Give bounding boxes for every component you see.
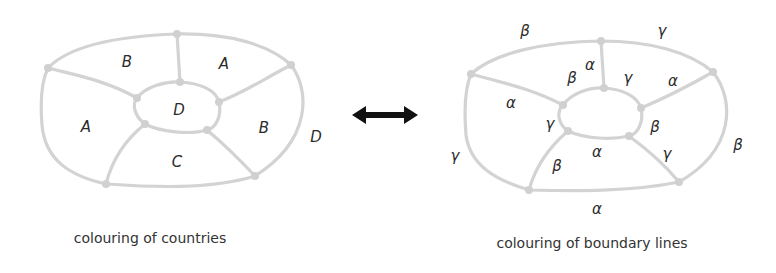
region-label-top-left: B <box>122 53 132 71</box>
spoke-lower-right <box>207 130 255 176</box>
edge-label-inner-top-left: β <box>566 69 577 87</box>
edge-label-inner-bottom: α <box>592 143 602 161</box>
region-label-left: A <box>80 118 91 136</box>
region-label-top-right: A <box>218 55 229 73</box>
edge-label-inner-right: β <box>649 118 660 136</box>
outer-boundary <box>465 41 727 191</box>
spoke-upper-right <box>219 65 291 102</box>
graph-colouring-figure: BAADBCD colouring of countries βγαβγααγβ… <box>0 0 776 273</box>
edge-labels: βγαβγααγββγαγβα <box>451 22 744 218</box>
region-label-center: D <box>173 101 185 119</box>
vertices <box>44 30 295 188</box>
spoke-top <box>177 34 180 82</box>
edge-label-spoke-lower-left: β <box>551 157 562 175</box>
edge-label-inner-left: γ <box>546 115 556 133</box>
edge-label-outer-left: γ <box>451 147 461 165</box>
left-caption: colouring of countries <box>74 230 226 246</box>
boundary-lines-diagram: βγαβγααγββγαγβα colouring of boundary li… <box>451 22 744 252</box>
region-label-bottom: C <box>172 153 183 171</box>
edge-label-spoke-upper-right: α <box>668 72 678 90</box>
edge-label-outer-bottom: α <box>592 200 602 218</box>
spoke-lower-left <box>106 124 145 184</box>
edge-label-outer-top-left: β <box>519 22 530 40</box>
region-labels: BAADBCD <box>80 53 322 171</box>
edge-label-spoke-upper-left: α <box>506 94 516 112</box>
spoke-upper-left <box>471 74 563 105</box>
region-label-outside: D <box>310 128 322 146</box>
edge-label-spoke-top: α <box>585 56 595 74</box>
spoke-top <box>601 41 604 88</box>
right-caption: colouring of boundary lines <box>496 235 687 251</box>
country-map-diagram: BAADBCD colouring of countries <box>41 30 322 246</box>
double-headed-arrow-icon <box>352 106 418 124</box>
spoke-lower-right <box>629 136 679 182</box>
edge-label-spoke-lower-right: γ <box>663 145 673 163</box>
spoke-lower-left <box>529 131 568 190</box>
edge-label-outer-top-right: γ <box>658 22 668 40</box>
edge-label-inner-top-right: γ <box>624 69 634 87</box>
region-label-right: B <box>259 119 269 137</box>
spoke-upper-left <box>48 68 137 98</box>
edge-label-outer-right: β <box>732 136 743 154</box>
